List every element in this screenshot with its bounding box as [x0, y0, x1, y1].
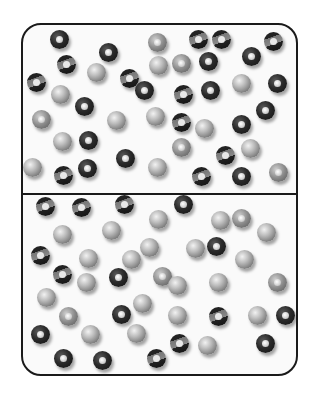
billiard-ball [269, 163, 288, 182]
billiard-ball [172, 138, 191, 157]
billiard-ball [50, 30, 69, 49]
billiard-ball [207, 237, 226, 256]
billiard-ball [146, 107, 165, 126]
billiard-ball [116, 149, 135, 168]
billiard-ball [99, 43, 118, 62]
billiard-ball [122, 250, 141, 269]
billiard-ball [75, 97, 94, 116]
billiard-ball [189, 30, 208, 49]
billiard-ball [53, 265, 72, 284]
billiard-ball [51, 85, 70, 104]
billiard-ball [199, 52, 218, 71]
billiard-ball [232, 167, 251, 186]
billiard-ball [53, 225, 72, 244]
billiard-ball [31, 246, 50, 265]
billiard-ball [248, 306, 267, 325]
billiard-ball [186, 239, 205, 258]
billiard-ball [174, 195, 193, 214]
billiard-ball [77, 273, 96, 292]
billiard-ball [115, 195, 134, 214]
billiard-ball [147, 349, 166, 368]
billiard-ball [257, 223, 276, 242]
billiard-ball [107, 111, 126, 130]
billiard-ball [235, 250, 254, 269]
bottom-chamber [23, 195, 296, 374]
billiard-ball [54, 349, 73, 368]
billiard-ball [241, 139, 260, 158]
billiard-ball [59, 307, 78, 326]
billiard-ball [201, 81, 220, 100]
billiard-ball [198, 336, 217, 355]
billiard-ball [79, 131, 98, 150]
billiard-ball [192, 167, 211, 186]
billiard-ball [133, 294, 152, 313]
billiard-ball [242, 47, 261, 66]
billiard-ball [149, 210, 168, 229]
billiard-ball [148, 158, 167, 177]
billiard-ball [268, 74, 287, 93]
billiard-ball [264, 32, 283, 51]
billiard-ball [57, 55, 76, 74]
billiard-ball [149, 56, 168, 75]
billiard-ball [127, 324, 146, 343]
billiard-ball [148, 33, 167, 52]
billiard-ball [53, 132, 72, 151]
billiard-ball [102, 221, 121, 240]
billiard-ball [168, 306, 187, 325]
billiard-ball [212, 30, 231, 49]
billiard-ball [32, 110, 51, 129]
top-chamber [23, 25, 296, 193]
billiard-ball [256, 101, 275, 120]
billiard-ball [37, 288, 56, 307]
billiard-ball [36, 197, 55, 216]
billiard-ball [78, 159, 97, 178]
billiard-ball [72, 198, 91, 217]
billiard-ball [209, 307, 228, 326]
container [21, 23, 298, 376]
billiard-ball [140, 238, 159, 257]
billiard-ball [232, 74, 251, 93]
billiard-ball [87, 63, 106, 82]
billiard-ball [109, 268, 128, 287]
billiard-ball [168, 276, 187, 295]
billiard-ball [93, 351, 112, 370]
billiard-ball [276, 306, 295, 325]
billiard-ball [232, 115, 251, 134]
billiard-ball [174, 85, 193, 104]
billiard-ball [27, 73, 46, 92]
billiard-ball [23, 158, 42, 177]
billiard-ball [31, 325, 50, 344]
billiard-ball [112, 305, 131, 324]
billiard-ball [81, 325, 100, 344]
billiard-ball [170, 334, 189, 353]
billiard-ball [268, 273, 287, 292]
billiard-ball [209, 273, 228, 292]
billiard-ball [256, 334, 275, 353]
billiard-ball [216, 146, 235, 165]
billiard-ball [172, 113, 191, 132]
billiard-ball [135, 81, 154, 100]
billiard-ball [54, 166, 73, 185]
billiard-ball [211, 211, 230, 230]
billiard-ball [195, 119, 214, 138]
billiard-ball [232, 209, 251, 228]
billiard-ball [172, 54, 191, 73]
billiard-ball [79, 249, 98, 268]
